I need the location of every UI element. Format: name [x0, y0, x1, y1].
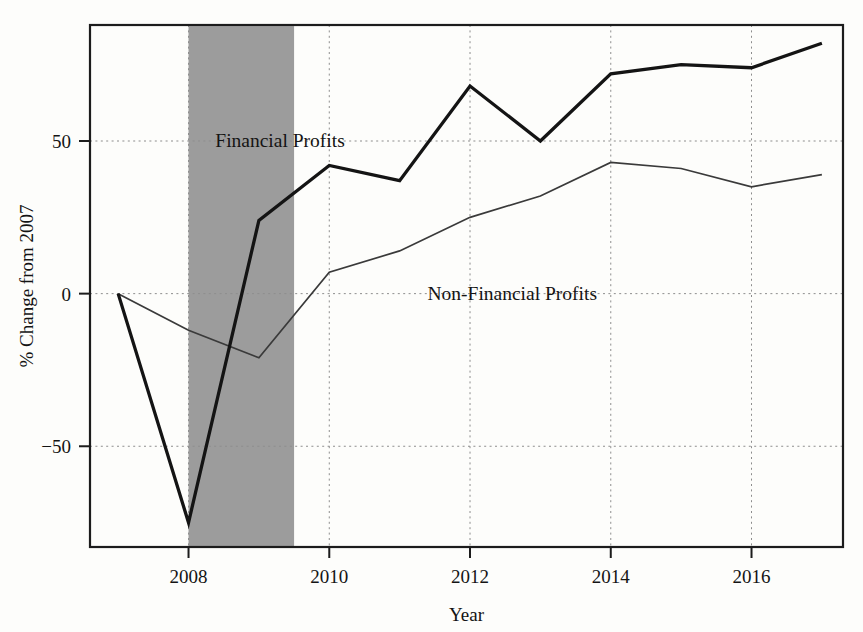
y-tick-label: −50 — [41, 436, 71, 457]
y-axis-tickmarks — [79, 141, 90, 446]
x-tick-label: 2016 — [733, 566, 771, 587]
x-axis-tickmarks — [189, 547, 752, 558]
y-tick-label: 50 — [52, 131, 71, 152]
chart-figure: 500−50 20082010201220142016 % Change fro… — [0, 0, 863, 632]
y-tick-label: 0 — [62, 284, 72, 305]
x-axis-tick-labels: 20082010201220142016 — [170, 566, 771, 587]
recession-shading-group — [189, 26, 295, 546]
line-chart-canvas: 500−50 20082010201220142016 % Change fro… — [0, 0, 863, 632]
series-annotation-financial-profits: Financial Profits — [215, 130, 344, 151]
recession-band — [189, 26, 295, 546]
x-tick-label: 2008 — [170, 566, 208, 587]
x-axis-title: Year — [449, 604, 485, 625]
x-tick-label: 2014 — [592, 566, 631, 587]
x-tick-label: 2012 — [451, 566, 489, 587]
x-tick-label: 2010 — [310, 566, 348, 587]
y-axis-tick-labels: 500−50 — [41, 131, 71, 457]
series-annotation-non-financial-profits: Non-Financial Profits — [427, 283, 597, 304]
y-axis-title: % Change from 2007 — [16, 204, 37, 367]
